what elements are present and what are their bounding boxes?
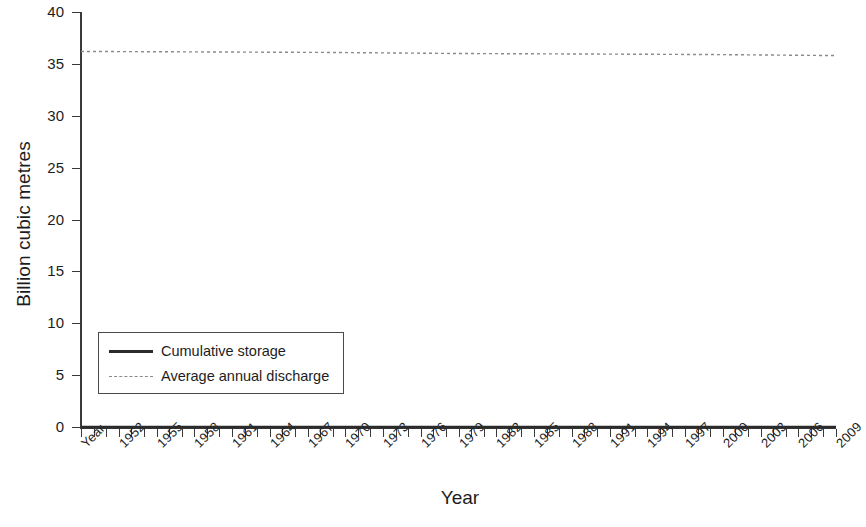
y-axis-tick bbox=[72, 168, 81, 169]
y-axis-tick-label: 10 bbox=[24, 315, 64, 330]
y-axis-tick bbox=[72, 220, 81, 221]
legend-item-cumulative-storage: Cumulative storage bbox=[107, 341, 286, 361]
y-axis-tick bbox=[72, 64, 81, 65]
x-axis-tick-label: 1979 bbox=[456, 419, 488, 451]
y-axis-tick bbox=[72, 323, 81, 324]
x-axis-tick-label: 1985 bbox=[531, 419, 563, 451]
x-axis-tick-label: 1961 bbox=[229, 419, 261, 451]
x-axis-tick-label: 1994 bbox=[644, 419, 676, 451]
legend-swatch-dashed-line bbox=[107, 370, 155, 382]
x-axis-tick-label: 1988 bbox=[569, 419, 601, 451]
x-axis-tick-label: 2006 bbox=[795, 419, 827, 451]
y-axis-tick-label: 35 bbox=[24, 56, 64, 71]
x-axis-tick-label: 1958 bbox=[191, 419, 223, 451]
x-axis-tick-label: 2009 bbox=[833, 419, 865, 451]
y-axis-tick-label: 40 bbox=[24, 4, 64, 19]
x-axis-tick-label: 1997 bbox=[682, 419, 714, 451]
x-axis-tick-label: 1955 bbox=[154, 419, 186, 451]
x-axis-title: Year bbox=[0, 487, 866, 509]
x-axis-tick-label: 1964 bbox=[267, 419, 299, 451]
y-axis-tick-label: 5 bbox=[24, 367, 64, 382]
series-average-annual-discharge bbox=[81, 51, 836, 55]
y-axis-tick bbox=[72, 375, 81, 376]
y-axis-tick-label: 25 bbox=[24, 160, 64, 175]
y-axis-tick-label: 30 bbox=[24, 108, 64, 123]
y-axis-tick bbox=[72, 271, 81, 272]
x-axis-tick-label: 1976 bbox=[418, 419, 450, 451]
legend-label-average-annual-discharge: Average annual discharge bbox=[161, 368, 329, 384]
y-axis-tick bbox=[72, 116, 81, 117]
x-axis-tick-label: 1967 bbox=[305, 419, 337, 451]
legend-label-cumulative-storage: Cumulative storage bbox=[161, 343, 286, 359]
legend-item-average-annual-discharge: Average annual discharge bbox=[107, 366, 329, 386]
x-axis-tick-label: 1973 bbox=[380, 419, 412, 451]
y-axis-tick bbox=[72, 427, 81, 428]
legend-swatch-solid-line bbox=[107, 345, 155, 357]
x-axis-tick-label: 2003 bbox=[758, 419, 790, 451]
y-axis-tick bbox=[72, 12, 81, 13]
chart-legend: Cumulative storage Average annual discha… bbox=[98, 332, 344, 394]
y-axis-line bbox=[80, 12, 82, 429]
x-axis-tick-label: 1982 bbox=[493, 419, 525, 451]
x-axis-tick-label: 1952 bbox=[116, 419, 148, 451]
y-axis-tick-label: 20 bbox=[24, 212, 64, 227]
y-axis-tick-label: 0 bbox=[24, 419, 64, 434]
x-axis-tick-label: Year bbox=[78, 421, 108, 451]
y-axis-tick-label: 15 bbox=[24, 263, 64, 278]
x-axis-tick-label: 2000 bbox=[720, 419, 752, 451]
x-axis-tick-label: 1970 bbox=[342, 419, 374, 451]
x-axis-tick-label: 1991 bbox=[607, 419, 639, 451]
